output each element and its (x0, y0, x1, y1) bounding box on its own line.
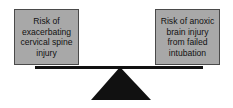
fulcrum-triangle-icon (0, 0, 233, 108)
